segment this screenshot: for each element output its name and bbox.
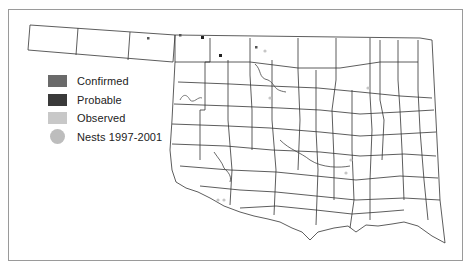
confirmed-swatch-icon xyxy=(48,75,67,87)
legend-item-confirmed: Confirmed xyxy=(48,72,162,91)
county-line xyxy=(178,82,432,98)
legend-label: Confirmed xyxy=(77,75,129,87)
observed-swatch-icon xyxy=(48,112,67,124)
legend-label: Probable xyxy=(77,94,122,106)
legend-item-observed: Observed xyxy=(48,109,162,128)
nest-circle-icon xyxy=(50,129,65,144)
county-line xyxy=(316,70,318,225)
legend-item-nests: Nests 1997-2001 xyxy=(48,128,162,147)
river xyxy=(255,64,286,92)
county-line xyxy=(380,40,384,160)
state-outline xyxy=(170,35,445,243)
legend-label: Nests 1997-2001 xyxy=(77,131,162,143)
county-line xyxy=(174,104,434,114)
river xyxy=(214,152,231,182)
panhandle-outline xyxy=(28,25,175,62)
legend-item-probable: Probable xyxy=(48,91,162,110)
county-line xyxy=(418,40,428,220)
county-line xyxy=(175,62,418,68)
county-line xyxy=(128,32,130,60)
probable-markers xyxy=(201,36,222,57)
county-line xyxy=(370,38,372,220)
county-line xyxy=(240,206,404,214)
river xyxy=(180,95,202,101)
county-line xyxy=(332,38,336,200)
probable-swatch-icon xyxy=(48,94,67,106)
county-line xyxy=(228,60,232,205)
county-line xyxy=(172,124,436,136)
legend-label: Observed xyxy=(77,112,126,124)
county-line xyxy=(250,38,252,150)
map-legend: Confirmed Probable Observed Nests 1997-2… xyxy=(48,72,162,146)
county-line xyxy=(172,144,436,156)
county-line xyxy=(76,28,78,55)
county-line xyxy=(180,166,438,180)
county-line xyxy=(298,38,300,170)
county-line xyxy=(200,38,210,160)
